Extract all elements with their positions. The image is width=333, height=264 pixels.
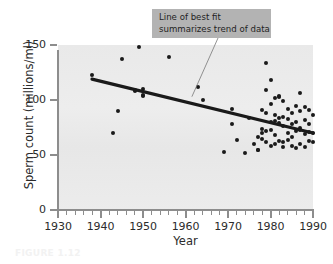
y-axis-tick <box>50 209 57 211</box>
data-point <box>141 87 145 91</box>
data-point <box>286 107 290 111</box>
data-point <box>269 78 273 82</box>
data-point <box>273 133 277 137</box>
x-axis-tick-label: 1950 <box>129 220 157 233</box>
plot-area <box>58 45 313 210</box>
y-axis-tick <box>50 44 57 46</box>
data-point <box>303 118 307 122</box>
data-point <box>298 128 302 132</box>
data-point <box>269 144 273 148</box>
data-point <box>247 116 251 120</box>
data-point <box>264 61 268 65</box>
data-point <box>137 45 141 49</box>
x-axis-tick-major <box>57 211 59 218</box>
x-axis-tick-minor <box>287 211 288 215</box>
x-axis-tick-minor <box>253 211 254 215</box>
data-point <box>256 148 260 152</box>
x-axis-tick-major <box>185 211 187 218</box>
x-axis-tick-minor <box>279 211 280 215</box>
data-point <box>235 138 239 142</box>
data-point <box>307 108 311 112</box>
callout-text-line-1: Line of best fit <box>159 12 271 24</box>
x-axis-tick-label: 1960 <box>172 220 200 233</box>
x-axis-tick-minor <box>168 211 169 215</box>
x-axis-tick-minor <box>151 211 152 215</box>
x-axis-tick-minor <box>194 211 195 215</box>
data-point <box>281 115 285 119</box>
x-axis-tick-label: 1940 <box>87 220 115 233</box>
y-axis-title: Sperm count (millions/ml) <box>22 35 36 195</box>
data-point <box>133 89 137 93</box>
data-point <box>286 117 290 121</box>
x-axis-tick-minor <box>304 211 305 215</box>
data-point <box>311 131 315 135</box>
data-point <box>286 131 290 135</box>
x-axis-tick-label: 1990 <box>299 220 327 233</box>
x-axis-tick-major <box>100 211 102 218</box>
data-point <box>307 122 311 126</box>
data-point <box>269 120 273 124</box>
figure-container: 050100150 1930194019501960197019801990 S… <box>0 0 333 264</box>
x-axis-title: Year <box>58 234 313 248</box>
x-axis-tick-major <box>227 211 229 218</box>
x-axis-tick-minor <box>117 211 118 215</box>
x-axis-tick-minor <box>177 211 178 215</box>
data-point <box>303 105 307 109</box>
x-axis-tick-minor <box>75 211 76 215</box>
x-axis-tick-minor <box>109 211 110 215</box>
data-point <box>116 109 120 113</box>
data-point <box>167 55 171 59</box>
line-of-best-fit-callout: Line of best fit summarizes trend of dat… <box>152 9 271 38</box>
x-axis-tick-minor <box>236 211 237 215</box>
data-point <box>286 138 290 142</box>
y-axis-line <box>57 50 59 211</box>
data-point <box>141 94 145 98</box>
x-axis-tick-major <box>270 211 272 218</box>
x-axis-tick-label: 1970 <box>214 220 242 233</box>
data-point <box>252 142 256 146</box>
x-axis-tick-minor <box>219 211 220 215</box>
x-axis-tick-minor <box>66 211 67 215</box>
data-point <box>290 111 294 115</box>
data-point <box>243 151 247 155</box>
x-axis-tick-minor <box>211 211 212 215</box>
x-axis-tick-label: 1980 <box>257 220 285 233</box>
figure-caption: FIGURE 1.12 <box>15 248 81 258</box>
x-axis-tick-minor <box>262 211 263 215</box>
x-axis-tick-minor <box>245 211 246 215</box>
data-point <box>273 142 277 146</box>
x-axis-tick-minor <box>83 211 84 215</box>
data-point <box>294 104 298 108</box>
data-point <box>201 98 205 102</box>
data-point <box>311 113 315 117</box>
x-axis-tick-minor <box>296 211 297 215</box>
data-point <box>269 102 273 106</box>
x-axis-tick-major <box>142 211 144 218</box>
data-point <box>277 95 281 99</box>
callout-text-line-2: summarizes trend of data <box>159 24 271 36</box>
plot-background <box>58 45 313 210</box>
y-axis-tick <box>50 99 57 101</box>
data-point <box>303 132 307 136</box>
data-point <box>90 73 94 77</box>
y-axis-tick <box>50 154 57 156</box>
x-axis-tick-minor <box>160 211 161 215</box>
data-point <box>311 140 315 144</box>
data-point <box>222 150 226 154</box>
x-axis-tick-minor <box>126 211 127 215</box>
x-axis-tick-major <box>312 211 314 218</box>
data-point <box>269 128 273 132</box>
y-axis-tick-label: 0 <box>39 203 46 216</box>
data-point <box>303 145 307 149</box>
x-axis-tick-label: 1930 <box>44 220 72 233</box>
x-axis-tick-minor <box>134 211 135 215</box>
x-axis-tick-minor <box>92 211 93 215</box>
data-point <box>290 122 294 126</box>
x-axis-tick-minor <box>202 211 203 215</box>
data-point <box>294 120 298 124</box>
